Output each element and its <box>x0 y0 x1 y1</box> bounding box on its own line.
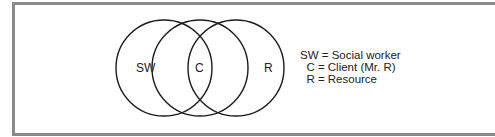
legend: SW = Social worker C = Client (Mr. R) R … <box>300 49 401 85</box>
legend-row-social-worker: SW = Social worker <box>300 49 401 61</box>
label-sw: SW <box>136 61 156 75</box>
label-r: R <box>264 61 273 75</box>
legend-row-resource: R = Resource <box>300 73 401 85</box>
label-c: C <box>195 61 204 75</box>
legend-row-client: C = Client (Mr. R) <box>300 61 401 73</box>
